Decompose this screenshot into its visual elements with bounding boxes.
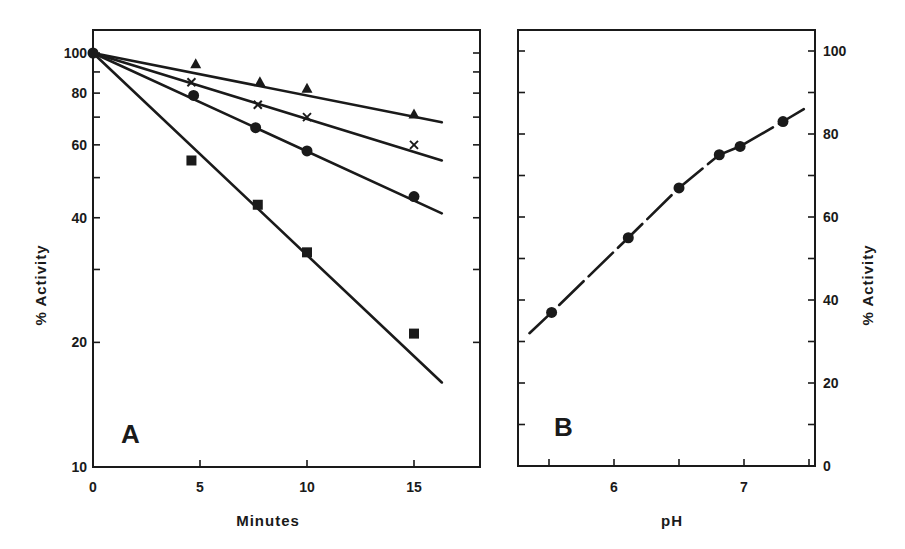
x-tick-label: 7 — [740, 479, 748, 495]
fit-line-square — [93, 53, 442, 382]
x-tick-label: 5 — [196, 479, 204, 495]
circle-marker — [674, 182, 685, 193]
y-tick-label: 20 — [71, 334, 87, 350]
y-tick-label: 0 — [823, 458, 831, 474]
circle-marker — [546, 307, 557, 318]
circle-marker — [188, 90, 199, 101]
triangle-marker — [254, 76, 265, 86]
y-tick-label: 40 — [823, 292, 839, 308]
chart-canvas: 0510151020406080100 A Minutes % Activity… — [0, 0, 905, 549]
panel-b-data-points — [546, 116, 788, 318]
panel-a-fit-lines — [93, 53, 442, 382]
y-tick-label: 40 — [71, 210, 87, 226]
y-tick-label: 10 — [71, 459, 87, 475]
circle-marker — [735, 141, 746, 152]
square-marker — [253, 200, 263, 210]
figure: 0510151020406080100 A Minutes % Activity… — [0, 0, 905, 549]
y-tick-label: 80 — [823, 126, 839, 142]
circle-marker — [623, 232, 634, 243]
triangle-marker — [302, 83, 313, 93]
panel-a-x-axis-title: Minutes — [236, 512, 300, 529]
fit-curve-circle — [530, 109, 804, 333]
panel-b-letter: B — [554, 412, 573, 442]
circle-marker — [714, 149, 725, 160]
triangle-marker — [409, 109, 420, 119]
y-tick-label: 60 — [823, 209, 839, 225]
circle-marker — [302, 145, 313, 156]
fit-line-circle — [93, 53, 442, 213]
x-tick-label: 10 — [299, 479, 315, 495]
y-tick-label: 80 — [71, 85, 87, 101]
circle-marker — [250, 122, 261, 133]
triangle-marker — [190, 58, 201, 68]
panel-a-data-points — [88, 48, 420, 339]
panel-a: 0510151020406080100 A Minutes % Activity — [32, 30, 480, 529]
panel-b-frame — [518, 30, 815, 466]
square-marker — [186, 155, 196, 165]
y-tick-label: 100 — [64, 45, 88, 61]
panel-b: 67020406080100 B pH % Activity — [518, 30, 876, 529]
panel-a-frame — [93, 30, 480, 467]
y-tick-label: 60 — [71, 137, 87, 153]
panel-a-letter: A — [121, 419, 140, 449]
fit-line-triangle — [93, 53, 442, 122]
circle-marker — [409, 191, 420, 202]
x-tick-label: 15 — [406, 479, 422, 495]
fit-line-cross — [93, 53, 442, 160]
square-marker — [409, 329, 419, 339]
circle-marker — [88, 48, 99, 59]
panel-b-fit-line — [530, 109, 804, 333]
panel-a-y-axis-title: % Activity — [32, 244, 49, 325]
panel-b-x-axis-title: pH — [661, 512, 683, 529]
square-marker — [302, 247, 312, 257]
x-tick-label: 6 — [610, 479, 618, 495]
circle-marker — [778, 116, 789, 127]
panel-b-y-axis-title: % Activity — [859, 244, 876, 325]
y-tick-label: 20 — [823, 375, 839, 391]
x-tick-label: 0 — [89, 479, 97, 495]
y-tick-label: 100 — [823, 43, 847, 59]
